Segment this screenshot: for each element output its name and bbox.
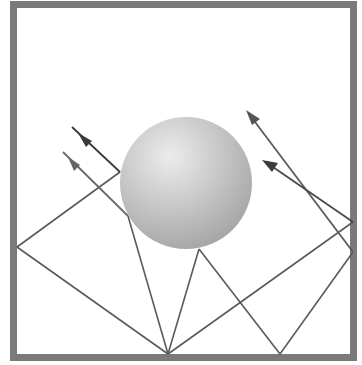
reflection-diagram	[0, 0, 362, 365]
sphere	[120, 117, 252, 249]
